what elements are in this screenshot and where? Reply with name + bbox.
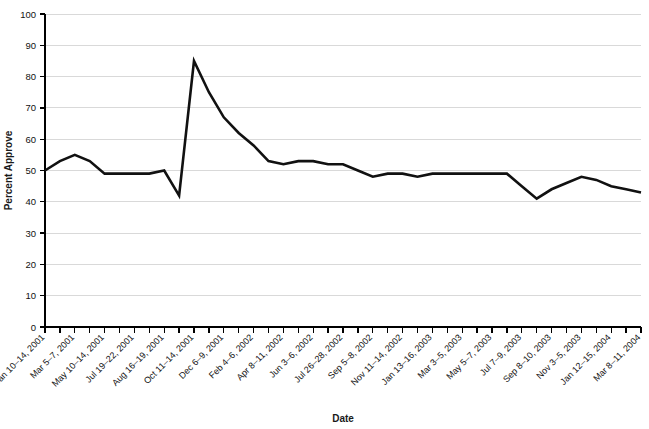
x-tick-label: Jan 10–14, 2001 <box>0 332 46 386</box>
y-tick-label: 100 <box>20 9 36 20</box>
y-axis-title: Percent Approve <box>3 130 14 210</box>
y-tick-label: 10 <box>25 290 36 301</box>
x-axis-title: Date <box>332 413 354 424</box>
y-tick-label: 80 <box>25 71 36 82</box>
y-tick-label: 50 <box>25 165 36 176</box>
y-tick-label: 40 <box>25 196 36 207</box>
x-tick-label: May 10–14, 2001 <box>50 332 106 388</box>
gridlines <box>45 14 641 296</box>
x-axis-tick-labels: Jan 10–14, 2001Mar 5–7, 2001May 10–14, 2… <box>0 332 642 388</box>
x-tick-label: Nov 11–14, 2002 <box>349 332 404 387</box>
approval-line-series <box>45 61 641 199</box>
y-tick-label: 70 <box>25 102 36 113</box>
chart-canvas: 0102030405060708090100 Jan 10–14, 2001Ma… <box>0 0 649 429</box>
y-tick-label: 0 <box>31 322 36 333</box>
y-tick-label: 90 <box>25 40 36 51</box>
x-tick-label: Aug 16–19, 2001 <box>110 332 166 388</box>
y-tick-label: 20 <box>25 259 36 270</box>
y-tick-label: 30 <box>25 228 36 239</box>
x-axis-ticks <box>45 327 641 333</box>
y-tick-label: 60 <box>25 134 36 145</box>
approval-rating-chart: 0102030405060708090100 Jan 10–14, 2001Ma… <box>0 0 649 429</box>
y-axis-ticks: 0102030405060708090100 <box>20 9 45 333</box>
